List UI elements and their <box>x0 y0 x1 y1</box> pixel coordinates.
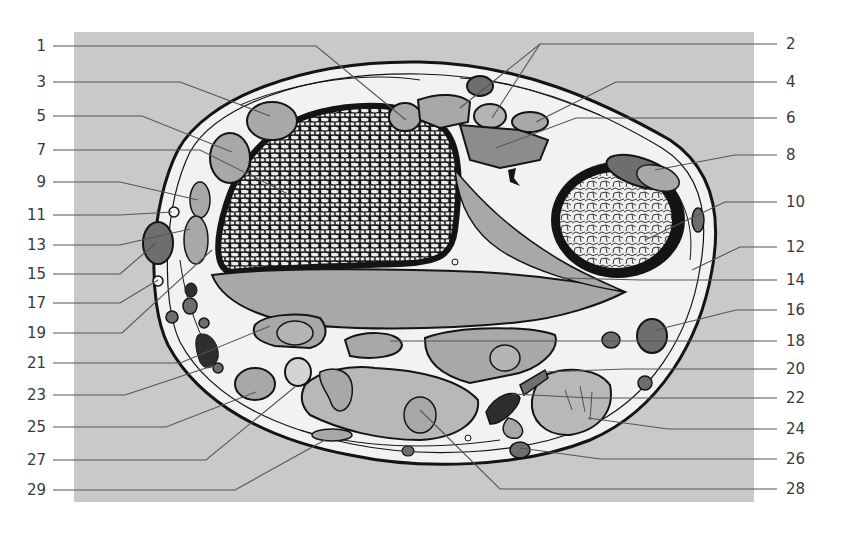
label-18: 18 <box>786 333 826 349</box>
label-22: 22 <box>786 390 826 406</box>
label-20: 20 <box>786 361 826 377</box>
label-7: 7 <box>10 142 46 158</box>
cross-section-illustration <box>0 0 853 535</box>
label-29: 29 <box>10 482 46 498</box>
label-17: 17 <box>10 295 46 311</box>
label-13: 13 <box>10 237 46 253</box>
label-6: 6 <box>786 110 826 126</box>
label-8: 8 <box>786 147 826 163</box>
label-15: 15 <box>10 266 46 282</box>
label-21: 21 <box>10 355 46 371</box>
label-26: 26 <box>786 451 826 467</box>
forearm-cross-section-figure: 1357911131517192123252729 24681012141618… <box>0 0 853 535</box>
label-12: 12 <box>786 239 826 255</box>
label-28: 28 <box>786 481 826 497</box>
label-9: 9 <box>10 174 46 190</box>
label-14: 14 <box>786 272 826 288</box>
label-11: 11 <box>10 207 46 223</box>
label-1: 1 <box>10 38 46 54</box>
label-24: 24 <box>786 421 826 437</box>
label-3: 3 <box>10 74 46 90</box>
label-2: 2 <box>786 36 826 52</box>
label-16: 16 <box>786 302 826 318</box>
label-25: 25 <box>10 419 46 435</box>
label-19: 19 <box>10 325 46 341</box>
label-4: 4 <box>786 74 826 90</box>
label-10: 10 <box>786 194 826 210</box>
label-27: 27 <box>10 452 46 468</box>
label-23: 23 <box>10 387 46 403</box>
label-5: 5 <box>10 108 46 124</box>
